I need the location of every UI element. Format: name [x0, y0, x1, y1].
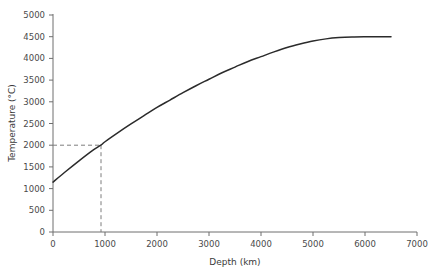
x-tick-label-4000: 4000 [250, 239, 272, 249]
axes-group [53, 14, 417, 232]
y-tick-label-4000: 4000 [23, 53, 45, 63]
y-tick-label-3000: 3000 [23, 97, 45, 107]
y-tick-label-2000: 2000 [23, 140, 45, 150]
y-tick-label-5000: 5000 [23, 10, 45, 20]
x-tick-label-2000: 2000 [146, 239, 168, 249]
x-tick-label-0: 0 [50, 239, 55, 249]
x-tick-label-5000: 5000 [302, 239, 324, 249]
guide-lines-group [53, 145, 101, 232]
y-tick-label-2500: 2500 [23, 119, 45, 129]
y-tick-label-1000: 1000 [23, 184, 45, 194]
chart-canvas: 0 500 1000 1500 2000 2500 3000 3500 4000… [0, 0, 440, 274]
y-axis-ticks: 0 500 1000 1500 2000 2500 3000 3500 4000… [23, 10, 53, 237]
x-tick-label-3000: 3000 [198, 239, 220, 249]
x-tick-label-6000: 6000 [354, 239, 376, 249]
y-tick-label-1500: 1500 [23, 162, 45, 172]
y-axis-title: Temperature (°C) [7, 84, 17, 163]
geotherm-curve [53, 37, 391, 182]
y-tick-label-3500: 3500 [23, 75, 45, 85]
y-tick-label-4500: 4500 [23, 32, 45, 42]
y-tick-label-500: 500 [29, 205, 45, 215]
x-axis-title: Depth (km) [209, 257, 260, 267]
x-tick-label-7000: 7000 [406, 239, 428, 249]
x-tick-label-1000: 1000 [94, 239, 116, 249]
temperature-depth-chart: 0 500 1000 1500 2000 2500 3000 3500 4000… [0, 0, 440, 274]
y-tick-label-0: 0 [40, 227, 45, 237]
x-axis-ticks: 0 1000 2000 3000 4000 5000 6000 7000 [50, 232, 428, 249]
